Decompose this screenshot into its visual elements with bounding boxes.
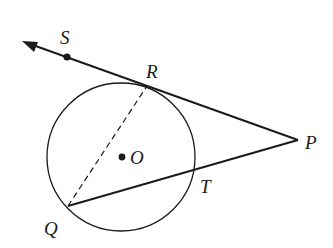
label-o: O — [130, 147, 144, 168]
secant-pq — [68, 140, 298, 206]
label-r: R — [145, 61, 158, 82]
geometry-diagram: S R P T Q O — [0, 0, 333, 248]
label-t: T — [200, 176, 212, 197]
arrowhead-icon — [22, 41, 38, 52]
point-o-dot — [119, 154, 126, 161]
point-s-dot — [63, 53, 70, 60]
label-q: Q — [44, 218, 58, 239]
label-s: S — [60, 27, 70, 48]
label-p: P — [304, 132, 317, 153]
chord-qr-dashed — [68, 86, 147, 206]
